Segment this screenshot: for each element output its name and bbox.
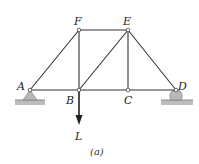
label-E: E <box>122 15 131 28</box>
joint-F <box>77 28 81 32</box>
right-ground <box>161 100 193 105</box>
joint-B <box>77 88 81 92</box>
label-D: D <box>177 80 187 93</box>
joint-A <box>28 88 32 92</box>
member-AF <box>30 30 79 90</box>
label-A: A <box>16 80 25 93</box>
truss-diagram: F E A D B C L (a) <box>0 0 199 164</box>
left-ground <box>15 100 45 105</box>
label-L: L <box>74 130 82 143</box>
member-BE <box>79 30 128 90</box>
label-C: C <box>124 94 133 107</box>
member-ED <box>128 30 176 90</box>
figure-caption: (a) <box>90 146 104 157</box>
label-B: B <box>65 94 74 107</box>
load-arrow <box>76 90 83 125</box>
joint-C <box>126 88 130 92</box>
truss-members <box>30 30 176 90</box>
joint-E <box>126 28 130 32</box>
label-F: F <box>73 15 82 28</box>
